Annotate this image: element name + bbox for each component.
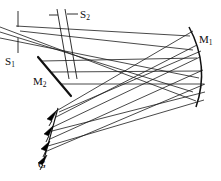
label-s2-sub: 2: [86, 13, 90, 22]
label-g-text: G: [38, 158, 46, 170]
exit-slit-s2[interactable]: [49, 9, 78, 79]
label-exit-slit-s2: S2: [80, 9, 90, 20]
grating-ray-4: [50, 70, 203, 139]
grating-tooth-2: [44, 126, 53, 142]
optical-diagram-figure: S1 S2 M1 M2 G: [0, 0, 221, 181]
label-mirror-m2: M2: [33, 76, 47, 87]
label-m1-text: M: [199, 33, 209, 45]
label-entrance-slit-s1: S1: [5, 56, 15, 67]
optics-canvas: [0, 0, 221, 181]
fold-ray-4: [52, 71, 201, 72]
label-grating-g: G: [38, 159, 46, 170]
fold-ray-1: [16, 26, 190, 36]
label-s1-sub: 1: [11, 60, 15, 69]
label-m2-sub: 2: [43, 80, 47, 89]
grating-ray-7: [52, 92, 205, 131]
label-mirror-m1: M1: [199, 34, 213, 45]
label-m2-text: M: [33, 75, 43, 87]
label-m1-sub: 1: [209, 38, 213, 47]
input-ray-1: [0, 27, 196, 101]
input-beam-group: [0, 27, 199, 101]
